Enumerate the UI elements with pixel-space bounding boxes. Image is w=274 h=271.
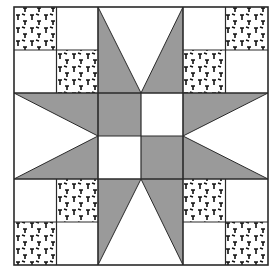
print-square	[183, 179, 226, 222]
quilt-block	[0, 0, 274, 271]
print-square	[14, 222, 57, 265]
print-square	[183, 50, 226, 93]
print-square	[57, 50, 99, 93]
center-gray-square	[141, 136, 183, 179]
center-gray-square	[98, 93, 141, 136]
print-square	[226, 7, 269, 50]
print-square	[14, 7, 57, 50]
print-square	[57, 179, 99, 222]
print-square	[226, 222, 269, 265]
